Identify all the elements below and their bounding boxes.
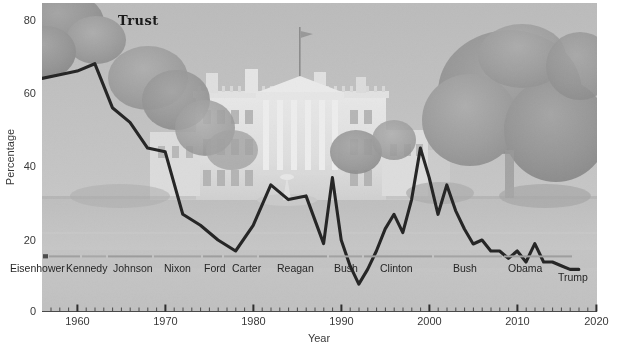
xtick-label-1990: 1990 [329, 315, 353, 327]
ytick-label-40: 40 [24, 160, 36, 172]
xtick-label-2020: 2020 [584, 315, 608, 327]
xtick-label-1960: 1960 [65, 315, 89, 327]
chart-figure: Trust Eisenhower Kennedy Johnson Nixon F… [0, 0, 620, 346]
president-label-clinton: Clinton [380, 262, 413, 274]
y-axis-title: Percentage [4, 129, 16, 185]
trust-series-annotation: Trust [118, 13, 159, 28]
president-label-johnson: Johnson [113, 262, 153, 274]
president-label-nixon: Nixon [164, 262, 191, 274]
ytick-label-20: 20 [24, 234, 36, 246]
president-label-trump: Trump [558, 271, 588, 283]
xtick-label-2000: 2000 [417, 315, 441, 327]
xtick-label-1980: 1980 [241, 315, 265, 327]
x-axis-title: Year [308, 332, 331, 344]
president-label-reagan: Reagan [277, 262, 314, 274]
xtick-label-1970: 1970 [153, 315, 177, 327]
president-label-bush-43: Bush [453, 262, 477, 274]
ytick-label-0: 0 [30, 305, 36, 317]
president-label-carter: Carter [232, 262, 262, 274]
trust-in-government-line-chart: Trust Eisenhower Kennedy Johnson Nixon F… [0, 0, 620, 346]
president-label-obama: Obama [508, 262, 543, 274]
ytick-label-80: 80 [24, 14, 36, 26]
xtick-label-2010: 2010 [505, 315, 529, 327]
president-label-kennedy: Kennedy [66, 262, 108, 274]
president-label-bush-41: Bush [334, 262, 358, 274]
ytick-label-60: 60 [24, 87, 36, 99]
president-label-ford: Ford [204, 262, 226, 274]
president-label-eisenhower: Eisenhower [10, 262, 65, 274]
